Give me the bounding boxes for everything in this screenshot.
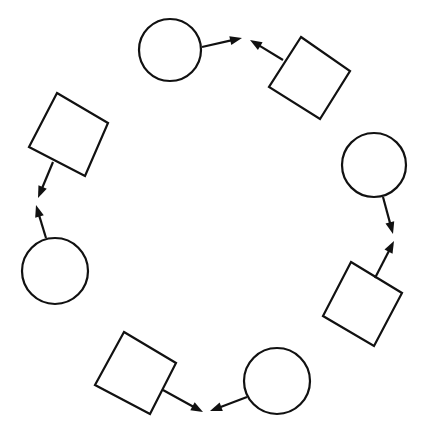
circle-bottom — [244, 348, 310, 414]
square-bottom-left — [95, 332, 176, 414]
arrowhead-icon — [385, 241, 394, 254]
arrow-circle-bottom-to-meet — [210, 397, 247, 411]
arrow-square-right-to-meet — [375, 241, 394, 278]
arrow-shaft — [259, 45, 283, 60]
arrow-square-bottom-left-to-meet — [163, 390, 203, 412]
arrow-circle-right-to-meet — [383, 197, 394, 234]
square-right — [323, 262, 402, 346]
arrow-circle-top-to-meet — [202, 36, 242, 47]
arrow-shaft — [39, 215, 46, 238]
arrow-shaft — [42, 162, 53, 189]
circle-right — [342, 133, 406, 197]
arrowhead-icon — [38, 185, 47, 198]
squares-group — [29, 37, 402, 414]
arrow-square-top-right-to-meet — [250, 40, 283, 60]
circle-left — [22, 238, 88, 304]
arrowhead-icon — [210, 403, 223, 411]
arrowhead-icon — [250, 40, 263, 50]
arrow-shaft — [219, 397, 247, 407]
arrow-shaft — [202, 40, 232, 47]
arrow-circle-left-to-meet — [35, 205, 46, 238]
circles-group — [22, 19, 406, 414]
arrowhead-icon — [35, 205, 44, 218]
square-top-right — [269, 37, 350, 119]
arrows-group — [35, 36, 394, 412]
cycle-diagram — [0, 0, 424, 432]
arrow-square-top-left-to-meet — [38, 162, 53, 198]
arrow-shaft — [163, 390, 194, 407]
circle-top — [139, 19, 201, 81]
arrow-shaft — [383, 197, 390, 224]
arrowhead-icon — [386, 221, 395, 234]
arrow-shaft — [375, 250, 389, 278]
square-top-left — [29, 93, 108, 176]
arrowhead-icon — [229, 36, 242, 45]
arrowhead-icon — [190, 402, 203, 412]
